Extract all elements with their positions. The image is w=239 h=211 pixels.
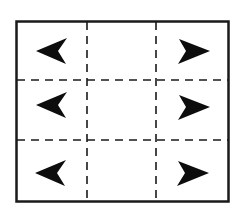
arrow-left-icon (36, 92, 67, 118)
arrow-right-icon (178, 39, 210, 64)
arrow-left-icon (35, 160, 66, 186)
arrow-right-icon (178, 95, 210, 120)
grid-diagram (0, 0, 239, 211)
arrow-right-icon (177, 161, 209, 186)
arrow-left-icon (36, 38, 67, 64)
